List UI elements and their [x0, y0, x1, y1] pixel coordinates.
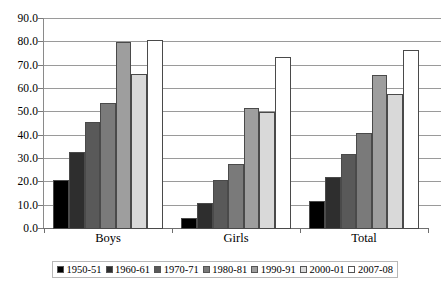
- legend-item: 2007-08: [348, 264, 393, 275]
- bar: [53, 180, 69, 229]
- y-axis: 90.080.070.060.050.040.030.020.010.00.0: [0, 0, 42, 252]
- chart-legend: 1950-511960-611970-711980-811990-912000-…: [52, 261, 398, 278]
- legend-item: 1960-61: [106, 264, 151, 275]
- bar-group: [181, 19, 290, 229]
- y-axis-tick-label: 30.0: [17, 153, 38, 164]
- legend-item: 1990-91: [251, 264, 296, 275]
- y-axis-tick-label: 70.0: [17, 59, 38, 70]
- bar: [85, 122, 101, 229]
- bar: [213, 180, 229, 229]
- x-axis-tickmark: [44, 228, 45, 233]
- bar: [309, 201, 325, 229]
- y-axis-tick-label: 20.0: [17, 176, 38, 187]
- x-axis-tickmark: [428, 228, 429, 233]
- y-axis-tick-label: 60.0: [17, 83, 38, 94]
- bar: [181, 218, 197, 229]
- y-axis-tick-label: 10.0: [17, 199, 38, 210]
- x-axis-category-label: Boys: [95, 231, 121, 246]
- bar: [372, 75, 388, 229]
- legend-swatch-icon: [203, 266, 210, 273]
- legend-swatch-icon: [300, 266, 307, 273]
- legend-item: 1970-71: [154, 264, 199, 275]
- legend-swatch-icon: [251, 266, 258, 273]
- y-axis-tick-label: 50.0: [17, 106, 38, 117]
- bar-group: [53, 19, 162, 229]
- legend-label: 1980-81: [212, 264, 247, 275]
- y-axis-tick-label: 80.0: [17, 36, 38, 47]
- bar: [197, 203, 213, 229]
- legend-swatch-icon: [57, 266, 64, 273]
- bar: [403, 50, 419, 229]
- y-axis-tick-label: 90.0: [17, 13, 38, 24]
- legend-label: 2007-08: [358, 264, 393, 275]
- x-axis-tickmark: [172, 228, 173, 233]
- bar: [387, 94, 403, 229]
- bar: [228, 164, 244, 229]
- bar: [100, 103, 116, 229]
- plot-area: 90.080.070.060.050.040.030.020.010.00.0 …: [0, 0, 448, 252]
- bar: [275, 57, 291, 229]
- y-axis-tick-label: 0.0: [23, 223, 38, 234]
- legend-swatch-icon: [348, 266, 355, 273]
- bar: [116, 42, 132, 229]
- bar: [244, 108, 260, 229]
- legend-swatch-icon: [154, 266, 161, 273]
- legend-label: 1960-61: [115, 264, 150, 275]
- bar: [356, 133, 372, 229]
- legend-label: 2000-01: [309, 264, 344, 275]
- legend-label: 1970-71: [164, 264, 199, 275]
- legend-label: 1950-51: [67, 264, 102, 275]
- legend-swatch-icon: [106, 266, 113, 273]
- bar: [325, 177, 341, 229]
- x-axis-tickmark: [300, 228, 301, 233]
- legend-item: 1980-81: [203, 264, 248, 275]
- legend-label: 1990-91: [261, 264, 296, 275]
- bar: [259, 112, 275, 229]
- bar: [341, 154, 357, 229]
- bar: [131, 74, 147, 229]
- x-axis-category-label: Total: [351, 231, 377, 246]
- y-axis-tick-label: 40.0: [17, 129, 38, 140]
- x-axis-category-label: Girls: [224, 231, 249, 246]
- bars-layer: [44, 0, 428, 252]
- legend-item: 1950-51: [57, 264, 102, 275]
- bar-chart: 90.080.070.060.050.040.030.020.010.00.0 …: [0, 0, 448, 290]
- legend-item: 2000-01: [300, 264, 345, 275]
- bar: [147, 40, 163, 229]
- bar: [69, 152, 85, 229]
- bar-group: [309, 19, 418, 229]
